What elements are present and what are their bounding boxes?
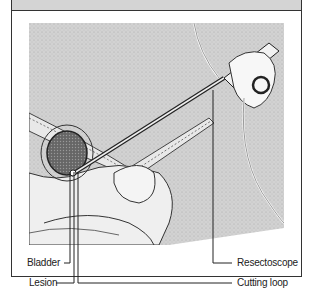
label-cutting-loop: Cutting loop xyxy=(237,277,288,288)
label-bladder: Bladder xyxy=(27,257,60,268)
label-lesion: Lesion xyxy=(29,277,57,288)
label-resectoscope: Resectoscope xyxy=(237,257,298,268)
